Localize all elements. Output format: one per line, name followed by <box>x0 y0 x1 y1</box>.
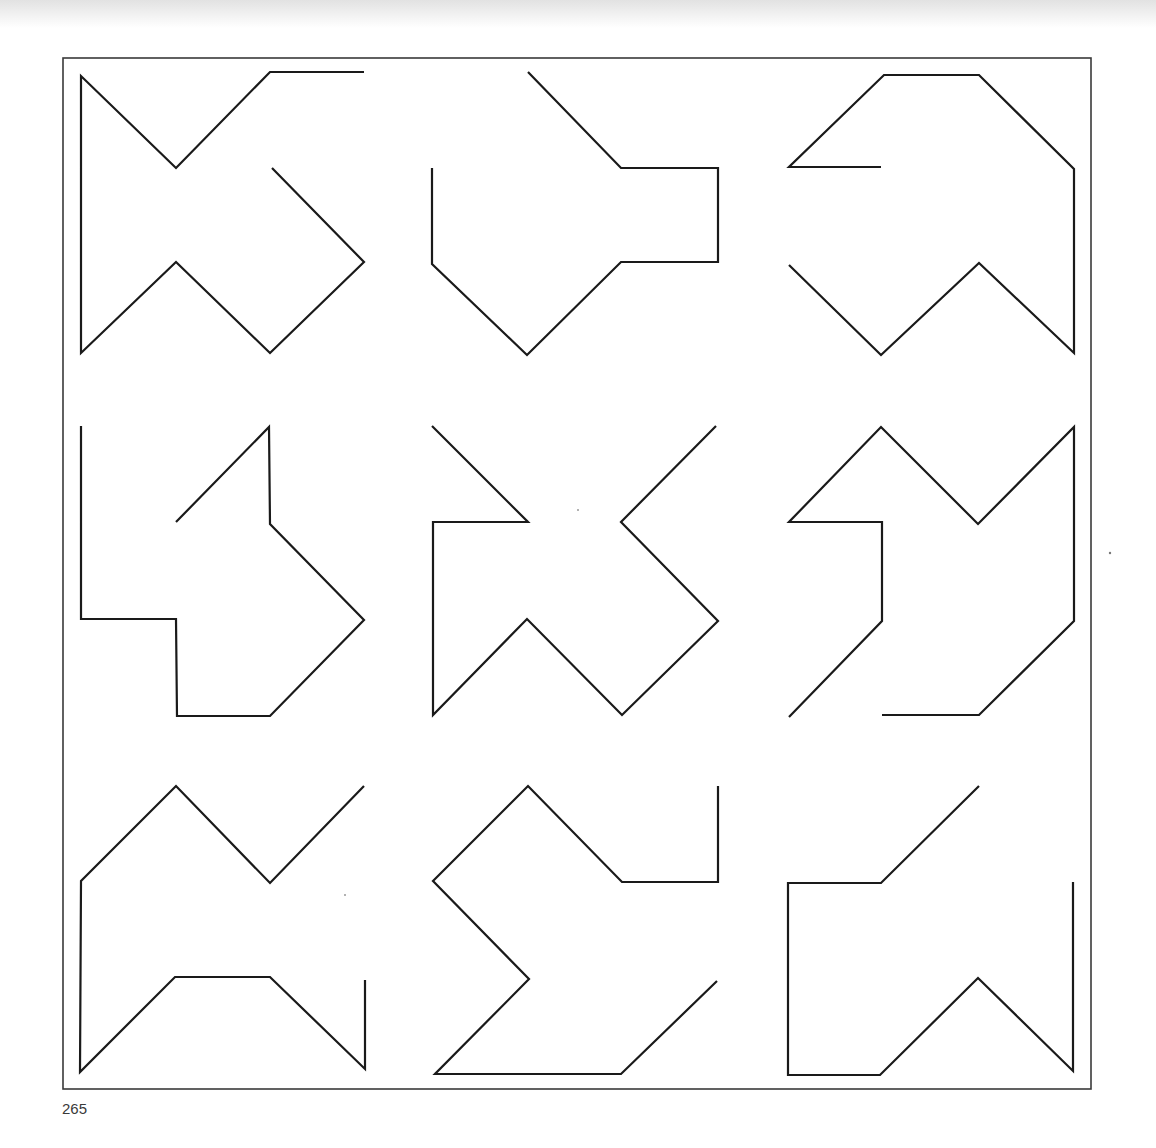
shape-3-polyline <box>789 75 1074 355</box>
scan-speck <box>344 894 346 896</box>
shape-5-polyline <box>432 426 718 715</box>
shape-6-polyline <box>789 427 1074 717</box>
shape-8-polyline <box>433 786 718 1074</box>
shape-1-polyline <box>81 72 364 353</box>
page-number: 265 <box>62 1100 87 1117</box>
figure-polyline-grid <box>0 0 1156 1148</box>
shape-2-polyline <box>432 72 718 355</box>
figure-frame <box>63 58 1091 1089</box>
shape-7-polyline <box>80 786 365 1072</box>
shape-4-polyline <box>81 426 364 716</box>
shapes-group <box>80 72 1074 1075</box>
shape-9-polyline <box>788 786 1073 1075</box>
scan-speck <box>1109 552 1111 554</box>
scan-speck <box>577 509 579 511</box>
